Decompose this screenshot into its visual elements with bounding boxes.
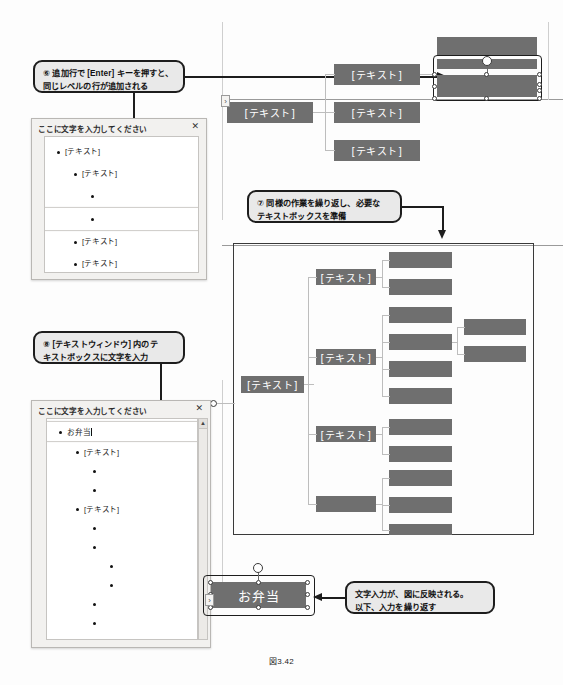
main-leaf-1-2-line [382, 287, 390, 288]
main-leaf-3-1[interactable] [464, 319, 526, 335]
bullet-label: [テキスト] [65, 147, 100, 156]
bullet-row[interactable]: [テキスト] [45, 141, 198, 163]
bullet-row[interactable] [47, 575, 197, 594]
main-leaf-5-1[interactable] [389, 470, 452, 486]
bullet-row[interactable] [47, 537, 197, 556]
bullet-row[interactable]: お弁当 [47, 421, 197, 442]
bullet-row[interactable] [47, 556, 197, 575]
main-diagram-l2-1[interactable]: [テキスト] [316, 269, 376, 285]
main-diagram-left-handle[interactable] [210, 400, 217, 407]
bullet-dot-icon [110, 584, 113, 587]
bullet-row[interactable] [47, 461, 197, 480]
bottom-shape-chevron-icon[interactable]: › [205, 594, 214, 606]
main-leaf-3-2-line [457, 354, 465, 355]
handle-bl[interactable] [432, 96, 437, 101]
main-leaf-1-1[interactable] [389, 252, 452, 268]
handle-br[interactable] [537, 96, 542, 101]
bullet-row[interactable] [45, 185, 198, 207]
main-connector-l2-3 [308, 434, 317, 435]
text-window-2-rows: お弁当[テキスト][テキスト] [47, 419, 197, 632]
top-diagram-connector-root [313, 112, 325, 113]
main-leaf-4-2[interactable] [389, 446, 452, 462]
main-leaf-2-3[interactable] [389, 361, 452, 377]
main-group-2-in [376, 357, 383, 358]
main-leaf-1-2[interactable] [389, 279, 452, 295]
bottom-handle-tc[interactable] [256, 580, 261, 585]
top-diagram-child-3[interactable]: [テキスト] [334, 140, 420, 161]
bullet-dot-icon [59, 431, 62, 434]
rotate-handle-icon[interactable] [482, 56, 492, 66]
bullet-row[interactable]: [テキスト] [47, 499, 197, 518]
bullet-row[interactable]: [テキスト] [45, 253, 198, 273]
scroll-up-icon[interactable]: ▲ [199, 419, 207, 429]
handle-tr[interactable] [537, 72, 542, 77]
main-leaf-3-2[interactable] [464, 346, 526, 362]
bullet-label: [テキスト] [82, 169, 117, 178]
connector-9-horizontal [320, 597, 346, 599]
close-icon-2[interactable]: ✕ [195, 404, 203, 413]
text-window-1-title: ここに文字を入力してください [38, 123, 200, 134]
handle-bc[interactable] [484, 96, 489, 101]
callout-8-line-2: キストボックスに文字を入力 [43, 352, 175, 365]
handle-mr[interactable] [537, 82, 542, 87]
bullet-label: [テキスト] [82, 237, 117, 246]
main-leaf-2-1[interactable] [389, 307, 452, 323]
bullet-row[interactable] [47, 480, 197, 499]
handle-mr2[interactable] [537, 88, 542, 93]
main-leaf-2-2[interactable] [389, 334, 452, 350]
main-diagram-l2-3[interactable]: [テキスト] [316, 426, 376, 442]
figure-caption: 図3.42 [0, 655, 563, 666]
bullet-row[interactable]: [テキスト] [45, 231, 198, 253]
main-leaf-5-3-line [382, 530, 390, 531]
top-diagram-root[interactable]: [テキスト] [227, 102, 313, 123]
bullet-label: [テキスト] [82, 259, 117, 268]
main-leaf-4-1[interactable] [389, 419, 452, 435]
main-group-1-in [376, 277, 383, 278]
main-diagram-l2-2[interactable]: [テキスト] [316, 349, 376, 365]
main-leaf-5-3[interactable] [389, 524, 452, 535]
text-window-1-body[interactable]: [テキスト][テキスト][テキスト][テキスト] [44, 136, 199, 273]
callout-step-6: ⑥ 追加行で [Enter] キーを押すと、 同じレベルの行が追加される [33, 60, 185, 93]
connector-7-horizontal [401, 206, 443, 208]
bullet-row[interactable] [45, 207, 198, 231]
bottom-handle-tl[interactable] [208, 580, 213, 585]
top-diagram-child-1[interactable]: [テキスト] [334, 64, 420, 85]
bottom-handle-bc[interactable] [256, 605, 261, 610]
bullet-row[interactable] [47, 613, 197, 632]
connector-7-arrowhead [438, 230, 446, 239]
top-diagram-connector-1 [325, 74, 335, 75]
top-diagram-child-2[interactable]: [テキスト] [334, 102, 420, 123]
callout-8-line-1: ⑧ [テキストウィンドウ] 内のテ [43, 339, 175, 352]
bullet-row[interactable]: [テキスト] [47, 442, 197, 461]
text-window-1[interactable]: ここに文字を入力してください ✕ [テキスト][テキスト][テキスト][テキスト… [31, 118, 207, 280]
text-window-2[interactable]: ここに文字を入力してください ✕ お弁当[テキスト][テキスト] ▲ [31, 400, 211, 648]
bullet-dot-icon [110, 565, 113, 568]
bullet-row[interactable] [47, 594, 197, 613]
callout-step-8: ⑧ [テキストウィンドウ] 内のテ キストボックスに文字を入力 [33, 331, 185, 364]
bullet-dot-icon [93, 603, 96, 606]
bottom-handle-br[interactable] [305, 605, 310, 610]
main-connector-l2-1 [308, 277, 317, 278]
main-diagram-left-connector [217, 403, 235, 404]
main-diagram-root[interactable]: [テキスト] [241, 376, 304, 393]
bullet-dot-icon [93, 546, 96, 549]
bullet-row[interactable]: [テキスト] [45, 163, 198, 185]
bottom-handle-tr[interactable] [305, 580, 310, 585]
bullet-row[interactable] [47, 518, 197, 537]
handle-ml[interactable] [432, 84, 437, 89]
handle-tl[interactable] [432, 72, 437, 77]
close-icon[interactable]: ✕ [191, 122, 199, 131]
main-leaf-5-1-line [382, 478, 390, 479]
main-diagram-l2-4[interactable] [316, 496, 376, 512]
main-group-1-spine [382, 260, 383, 287]
top-diagram-chevron-icon[interactable]: › [221, 95, 230, 107]
main-leaf-5-2[interactable] [389, 497, 452, 513]
main-group-4-spine [382, 427, 383, 454]
bottom-rotate-handle-icon[interactable] [253, 563, 263, 573]
main-leaf-2-4[interactable] [389, 388, 452, 404]
bullet-label: [テキスト] [84, 448, 119, 457]
main-leaf-5-2-line [382, 505, 390, 506]
bottom-handle-mr[interactable] [305, 592, 310, 597]
text-window-2-body[interactable]: お弁当[テキスト][テキスト] [46, 418, 198, 640]
handle-tc[interactable] [484, 72, 489, 77]
